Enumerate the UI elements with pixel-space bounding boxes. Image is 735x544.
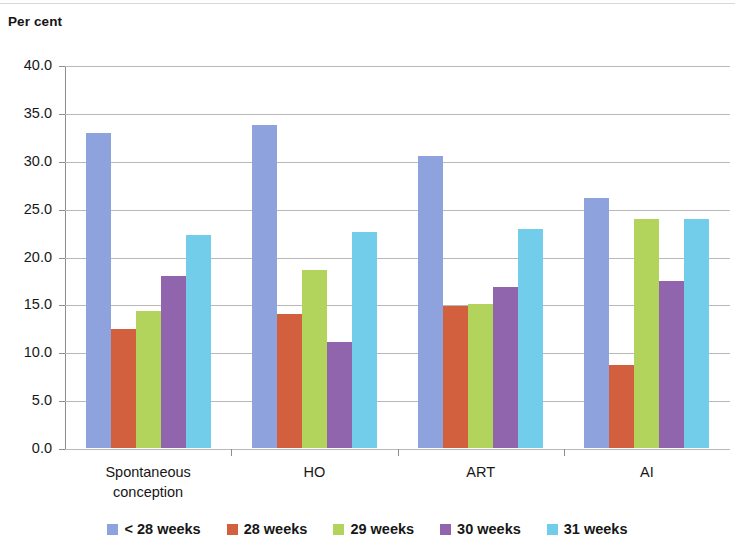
- legend-item[interactable]: 30 weeks: [440, 521, 521, 537]
- y-axis-tick: [59, 258, 65, 259]
- y-axis-tick-label: 40.0: [0, 57, 52, 73]
- bar: [186, 235, 211, 448]
- bar: [418, 156, 443, 448]
- y-axis-tick: [59, 210, 65, 211]
- legend-swatch-icon: [333, 524, 344, 535]
- bar: [443, 306, 468, 448]
- y-axis-tick-label: 25.0: [0, 201, 52, 217]
- gridline: [65, 258, 730, 259]
- bar: [468, 304, 493, 448]
- bar-chart: Per cent 0.05.010.015.020.025.030.035.04…: [0, 0, 735, 544]
- y-axis-tick: [59, 162, 65, 163]
- y-axis-tick-label: 30.0: [0, 153, 52, 169]
- legend-item[interactable]: 28 weeks: [227, 521, 308, 537]
- chart-legend: < 28 weeks28 weeks29 weeks30 weeks31 wee…: [0, 521, 735, 537]
- legend-swatch-icon: [547, 524, 558, 535]
- x-axis-category-label-line: Spontaneous: [65, 462, 231, 482]
- bar: [252, 125, 277, 448]
- legend-item-label: < 28 weeks: [124, 521, 200, 537]
- bar: [327, 342, 352, 448]
- gridline: [65, 210, 730, 211]
- bar: [684, 219, 709, 448]
- bar: [161, 276, 186, 448]
- bar: [277, 314, 302, 448]
- y-axis-title: Per cent: [8, 14, 62, 29]
- top-divider: [0, 3, 735, 4]
- gridline: [65, 66, 730, 67]
- bar: [86, 133, 111, 448]
- bar: [659, 281, 684, 448]
- y-axis-tick: [59, 66, 65, 67]
- bar: [111, 329, 136, 448]
- y-axis-tick-label: 10.0: [0, 344, 52, 360]
- y-axis-tick: [59, 401, 65, 402]
- bar: [634, 219, 659, 448]
- x-axis-category-label-line: AI: [564, 462, 730, 482]
- x-axis-group-separator: [564, 449, 565, 456]
- x-axis-category-label: HO: [231, 462, 397, 482]
- y-axis-tick: [59, 305, 65, 306]
- x-axis-category-label-line: HO: [231, 462, 397, 482]
- y-axis-tick-label: 5.0: [0, 392, 52, 408]
- legend-swatch-icon: [227, 524, 238, 535]
- legend-item[interactable]: 31 weeks: [547, 521, 628, 537]
- legend-item[interactable]: 29 weeks: [333, 521, 414, 537]
- x-axis-category-label-line: ART: [398, 462, 564, 482]
- legend-item-label: 30 weeks: [457, 521, 521, 537]
- y-axis-tick-label: 20.0: [0, 249, 52, 265]
- x-axis-group-separator: [231, 449, 232, 456]
- y-axis-tick: [59, 353, 65, 354]
- bar: [518, 229, 543, 448]
- x-axis-category-label: ART: [398, 462, 564, 482]
- x-axis-category-label-line: conception: [65, 482, 231, 502]
- legend-item-label: 31 weeks: [564, 521, 628, 537]
- y-axis-tick-label: 35.0: [0, 105, 52, 121]
- legend-swatch-icon: [107, 524, 118, 535]
- y-axis-tick: [59, 114, 65, 115]
- legend-item-label: 29 weeks: [350, 521, 414, 537]
- bar: [352, 232, 377, 448]
- gridline: [65, 114, 730, 115]
- bar: [609, 365, 634, 448]
- x-axis-category-label: AI: [564, 462, 730, 482]
- legend-swatch-icon: [440, 524, 451, 535]
- bar: [584, 198, 609, 448]
- bar: [136, 311, 161, 448]
- y-axis-tick-label: 15.0: [0, 296, 52, 312]
- bar: [493, 287, 518, 448]
- x-axis-category-label: Spontaneousconception: [65, 462, 231, 502]
- y-axis-tick: [59, 449, 65, 450]
- bar: [302, 270, 327, 448]
- plot-area: 0.05.010.015.020.025.030.035.040.0 Spont…: [65, 66, 730, 449]
- legend-item[interactable]: < 28 weeks: [107, 521, 200, 537]
- legend-item-label: 28 weeks: [244, 521, 308, 537]
- x-axis-group-separator: [398, 449, 399, 456]
- gridline: [65, 162, 730, 163]
- y-axis-tick-label: 0.0: [0, 440, 52, 456]
